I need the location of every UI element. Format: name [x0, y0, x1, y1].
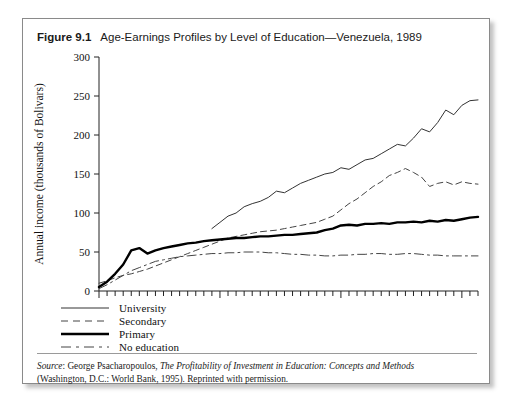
figure-caption: Age-Earnings Profiles by Level of Educat… — [100, 31, 422, 43]
series-line-primary — [99, 217, 478, 287]
legend-key-university — [59, 302, 111, 314]
source-line-2: (Washington, D.C.: World Bank, 1995). Re… — [37, 373, 479, 386]
source-label: Source — [37, 361, 62, 371]
series-line-no-education — [99, 252, 478, 289]
legend-item: University — [41, 301, 261, 314]
legend-item: Secondary — [41, 314, 261, 327]
chart-axes — [99, 57, 478, 291]
source-work-title: The Profitability of Investment in Educa… — [160, 361, 414, 371]
svg-text:250: 250 — [74, 90, 91, 102]
chart-svg: 050100150200250300 10254055 Annual incom… — [23, 49, 491, 299]
x-axis-ticks — [99, 291, 478, 298]
y-axis-ticks — [94, 57, 99, 291]
svg-text:150: 150 — [74, 168, 91, 180]
y-axis-tick-labels: 050100150200250300 — [74, 51, 91, 297]
legend-item: No education — [41, 340, 261, 353]
source-line-1: Source: George Psacharopoulos, The Profi… — [37, 360, 479, 373]
svg-text:0: 0 — [85, 285, 91, 297]
chart-legend: University Secondary Primary No educatio… — [41, 301, 261, 353]
legend-label-university: University — [119, 302, 166, 314]
y-axis-title: Annual income (thousands of Bolivars) — [33, 83, 46, 265]
figure-title: Figure 9.1Age-Earnings Profiles by Level… — [37, 31, 422, 43]
chart-series — [99, 100, 478, 289]
legend-item: Primary — [41, 327, 261, 340]
legend-key-primary — [59, 328, 111, 340]
legend-label-no-education: No education — [119, 341, 179, 353]
svg-text:200: 200 — [74, 129, 91, 141]
figure-container: Figure 9.1Age-Earnings Profiles by Level… — [22, 18, 490, 384]
legend-label-primary: Primary — [119, 328, 155, 340]
series-line-university — [212, 100, 478, 229]
legend-key-secondary — [59, 315, 111, 327]
series-line-secondary — [99, 169, 478, 284]
legend-label-secondary: Secondary — [119, 315, 166, 327]
svg-text:100: 100 — [74, 207, 91, 219]
source-divider — [37, 353, 477, 354]
source-note: Source: George Psacharopoulos, The Profi… — [37, 360, 479, 385]
svg-text:50: 50 — [79, 246, 91, 258]
svg-text:300: 300 — [74, 51, 91, 63]
legend-key-no-education — [59, 341, 111, 353]
source-author: George Psacharopoulos, — [65, 361, 160, 371]
chart-plot-area: 050100150200250300 10254055 Annual incom… — [23, 49, 491, 299]
figure-number: Figure 9.1 — [37, 31, 91, 43]
